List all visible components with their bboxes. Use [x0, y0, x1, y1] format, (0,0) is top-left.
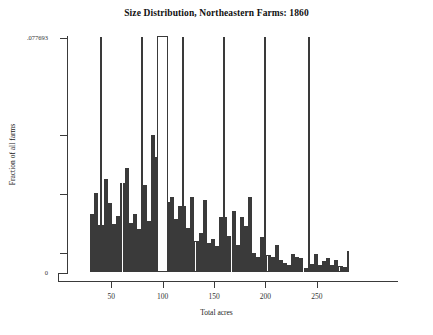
- chart-title: Size Distribution, Northeastern Farms: 1…: [0, 8, 433, 18]
- y-tick-label-max: .077693: [27, 34, 48, 41]
- x-tick-label: 150: [208, 292, 219, 301]
- histogram-bar: [308, 37, 310, 272]
- histogram-bar: [347, 251, 349, 272]
- histogram-bar-peak: [157, 36, 167, 272]
- y-tick-low: [60, 253, 67, 254]
- x-tick: [163, 281, 164, 288]
- histogram-bars: [68, 36, 358, 272]
- plot-area: [68, 36, 358, 272]
- histogram-bar: [264, 37, 266, 272]
- x-tick: [111, 281, 112, 288]
- y-axis-foot-segment: [58, 273, 68, 274]
- x-tick-label: 100: [157, 292, 168, 301]
- x-tick-label: 200: [260, 292, 271, 301]
- x-tick: [317, 281, 318, 288]
- x-axis-line: [58, 281, 398, 282]
- x-tick: [265, 281, 266, 288]
- y-tick-label-zero: 0: [45, 269, 48, 276]
- x-tick: [214, 281, 215, 288]
- x-tick-label: 250: [311, 292, 322, 301]
- x-axis-title: Total acres: [0, 308, 433, 317]
- y-tick-mid-lower: [60, 194, 67, 195]
- y-axis-title: Fraction of all farms: [8, 100, 17, 210]
- histogram-figure: Size Distribution, Northeastern Farms: 1…: [0, 0, 433, 335]
- y-tick-mid-upper: [60, 135, 67, 136]
- x-tick-label: 50: [107, 292, 115, 301]
- y-tick-max: [60, 38, 67, 39]
